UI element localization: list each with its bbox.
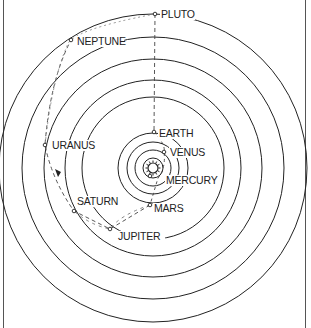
planet-dot-icon <box>152 130 156 134</box>
planet-neptune: NEPTUNE <box>69 35 126 47</box>
planet-label: EARTH <box>159 127 193 139</box>
planet-label: MARS <box>154 202 184 214</box>
planet-dot-icon <box>148 203 152 207</box>
planet-dot-icon <box>69 38 73 42</box>
arrow-up-icon <box>55 169 61 177</box>
planet-jupiter: JUPITER <box>108 227 161 242</box>
planet-label: JUPITER <box>118 230 161 242</box>
solar-system-diagram: MERCURYVENUSEARTHMARSJUPITERSATURNURANUS… <box>0 0 311 328</box>
pluto-orbit-dotted <box>45 14 155 145</box>
planet-label: VENUS <box>170 146 205 158</box>
planet-label: SATURN <box>77 195 118 207</box>
planet-label: URANUS <box>52 139 95 151</box>
planet-saturn: SATURN <box>72 195 118 213</box>
planet-earth: EARTH <box>152 127 193 139</box>
planet-dot-icon <box>72 209 76 213</box>
planet-dot-icon <box>148 174 152 178</box>
planet-dot-icon <box>162 150 166 154</box>
planet-label: MERCURY <box>166 174 218 186</box>
planet-dot-icon <box>153 12 157 16</box>
planet-dot-icon <box>43 143 47 147</box>
pluto-earth-line <box>154 14 155 132</box>
planet-mars: MARS <box>148 202 184 214</box>
sun-icon <box>146 161 161 176</box>
planet-label: PLUTO <box>161 8 195 20</box>
planet-label: NEPTUNE <box>77 35 126 47</box>
planet-uranus: URANUS <box>43 139 95 151</box>
planet-dot-icon <box>108 227 112 231</box>
